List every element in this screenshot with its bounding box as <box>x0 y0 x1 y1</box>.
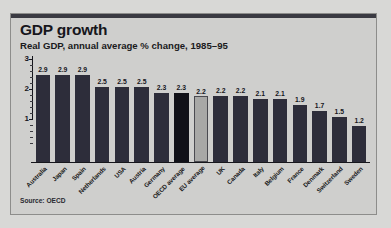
bar-belgium: 2.1Belgium <box>273 99 288 162</box>
bar-sweden: 1.2Sweden <box>352 126 367 162</box>
bar-spain: 2.9Spain <box>75 75 90 162</box>
bar-value-label: 2.5 <box>117 79 126 86</box>
y-tick-major <box>29 119 33 120</box>
bar-value-label: 2.9 <box>38 67 47 74</box>
screenshot-root: GDP growth Real GDP, annual average % ch… <box>0 0 391 228</box>
bar-denmark: 1.7Denmark <box>312 111 327 162</box>
bars-layer: 2.9Australia2.9Japan2.9Spain2.5Netherlan… <box>33 72 369 162</box>
bar-value-label: 2.2 <box>236 88 245 95</box>
bar-value-label: 2.9 <box>78 67 87 74</box>
bar-value-label: 2.3 <box>157 85 166 92</box>
bar-usa: 2.5USA <box>115 87 130 162</box>
bar-value-label: 1.2 <box>354 118 363 125</box>
bar-value-label: 2.1 <box>256 91 265 98</box>
plot-area: 123 2.9Australia2.9Japan2.9Spain2.5Nethe… <box>11 14 377 215</box>
x-axis-category-label: Spain <box>71 165 88 182</box>
bar-germany: 2.3Germany <box>154 93 169 162</box>
chart-panel: GDP growth Real GDP, annual average % ch… <box>10 13 377 215</box>
bar-australia: 2.9Australia <box>36 75 51 162</box>
bar-switzerland: 1.5Switzerland <box>332 117 347 162</box>
bar-value-label: 2.5 <box>137 79 146 86</box>
x-axis-category-label: Japan <box>50 165 67 182</box>
bar-value-label: 2.3 <box>177 85 186 92</box>
bar-value-label: 2.1 <box>275 91 284 98</box>
bar-value-label: 2.5 <box>97 79 106 86</box>
x-axis-category-label: Canada <box>225 165 246 186</box>
x-axis-category-label: Italy <box>252 165 266 179</box>
x-axis-category-label: Belgium <box>263 165 285 187</box>
bar-value-label: 2.2 <box>216 88 225 95</box>
bar-value-label: 2.2 <box>196 89 205 96</box>
y-tick-major <box>29 89 33 90</box>
bar-eu-average: 2.2EU average <box>194 96 209 162</box>
bar-uk: 2.2UK <box>213 96 228 162</box>
bar-italy: 2.1Italy <box>253 99 268 162</box>
bar-value-label: 1.9 <box>295 97 304 104</box>
y-tick-label: 1 <box>25 115 29 123</box>
bar-france: 1.9France <box>293 105 308 162</box>
y-tick-label: 2 <box>25 85 29 93</box>
x-axis-category-label: UK <box>214 165 225 176</box>
bar-value-label: 2.9 <box>58 67 67 74</box>
bar-value-label: 1.5 <box>335 109 344 116</box>
bar-japan: 2.9Japan <box>55 75 70 162</box>
bar-netherlands: 2.5Netherlands <box>95 87 110 162</box>
bar-austria: 2.5Austria <box>134 87 149 162</box>
y-tick-minor <box>30 65 33 66</box>
bar-oecd-average: 2.3OECD average <box>174 93 189 162</box>
x-axis-category-label: Sweden <box>343 165 364 186</box>
bar-canada: 2.2Canada <box>233 96 248 162</box>
x-axis-category-label: USA <box>113 165 127 179</box>
y-tick-major <box>29 59 33 60</box>
y-tick-label: 3 <box>25 55 29 63</box>
x-axis-category-label: Australia <box>24 165 47 188</box>
source-note: Source: OECD <box>20 197 65 204</box>
bar-value-label: 1.7 <box>315 103 324 110</box>
